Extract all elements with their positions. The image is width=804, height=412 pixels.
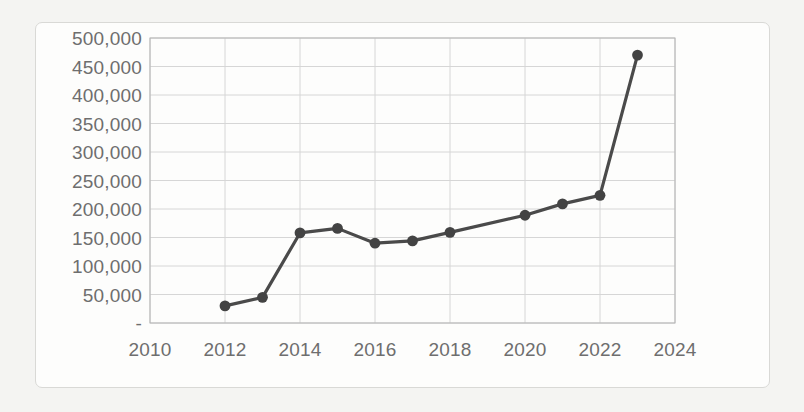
x-axis-tick-labels: 20102012201420162018202020222024 <box>0 0 804 412</box>
x-axis-tick-label: 2010 <box>110 340 190 359</box>
x-axis-tick-label: 2012 <box>185 340 265 359</box>
x-axis-tick-label: 2020 <box>485 340 565 359</box>
chart-screenshot: -50,000100,000150,000200,000250,000300,0… <box>0 0 804 412</box>
line-chart: -50,000100,000150,000200,000250,000300,0… <box>0 0 804 412</box>
x-axis-tick-label: 2016 <box>335 340 415 359</box>
x-axis-tick-label: 2022 <box>560 340 640 359</box>
x-axis-tick-label: 2024 <box>635 340 715 359</box>
x-axis-tick-label: 2018 <box>410 340 490 359</box>
x-axis-tick-label: 2014 <box>260 340 340 359</box>
